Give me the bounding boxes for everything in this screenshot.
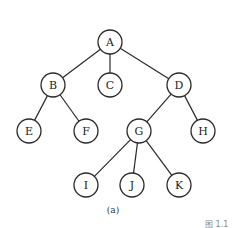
node-label: B bbox=[49, 79, 57, 92]
node-label: D bbox=[175, 79, 184, 92]
subfigure-caption: (a) bbox=[107, 205, 119, 215]
figure-label: 图 1.1 bbox=[205, 220, 228, 228]
node-label: C bbox=[106, 79, 114, 92]
node-label: I bbox=[84, 179, 88, 192]
node-e: E bbox=[17, 119, 41, 143]
edges bbox=[35, 48, 198, 176]
node-b: B bbox=[41, 73, 65, 97]
node-i: I bbox=[74, 173, 98, 197]
edge-a-b bbox=[63, 49, 101, 78]
node-c: C bbox=[98, 73, 122, 97]
nodes: ABCDEFGHIJK bbox=[17, 30, 215, 197]
node-k: K bbox=[167, 173, 191, 197]
edge-b-f bbox=[60, 95, 79, 121]
node-f: F bbox=[74, 119, 98, 143]
node-label: G bbox=[135, 125, 144, 138]
node-d: D bbox=[167, 73, 191, 97]
node-j: J bbox=[120, 173, 144, 197]
node-g: G bbox=[127, 119, 151, 143]
node-label: K bbox=[175, 179, 184, 192]
edge-b-e bbox=[35, 96, 48, 121]
edge-g-i bbox=[94, 140, 130, 177]
node-label: A bbox=[105, 36, 115, 49]
node-label: F bbox=[82, 125, 90, 138]
edge-d-h bbox=[185, 96, 198, 121]
edge-a-d bbox=[120, 48, 169, 78]
node-label: H bbox=[198, 125, 208, 138]
node-label: J bbox=[129, 179, 134, 192]
node-h: H bbox=[191, 119, 215, 143]
tree-diagram: ABCDEFGHIJK (a) 图 1.1 bbox=[0, 0, 234, 228]
node-a: A bbox=[98, 30, 122, 54]
edge-g-k bbox=[146, 141, 172, 176]
edge-d-g bbox=[147, 94, 171, 122]
node-label: E bbox=[25, 125, 33, 138]
edge-g-j bbox=[134, 143, 138, 173]
